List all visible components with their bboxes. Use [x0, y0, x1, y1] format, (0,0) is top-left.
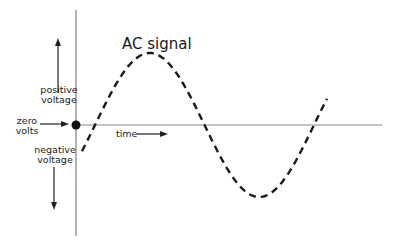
negative-voltage-line2: voltage — [32, 155, 78, 165]
time-label: time — [116, 129, 137, 139]
right-arrow-icon — [61, 121, 69, 127]
negative-voltage-label: negative voltage — [32, 145, 78, 165]
positive-voltage-label: positive voltage — [36, 85, 82, 105]
time-arrow-icon — [160, 131, 168, 137]
up-arrow-icon — [55, 38, 61, 46]
zero-volts-label: zero volts — [12, 116, 42, 136]
diagram-title: AC signal — [122, 35, 192, 53]
origin-dot — [72, 121, 81, 130]
ac-signal-diagram — [0, 0, 399, 249]
down-arrow-icon — [51, 202, 57, 210]
positive-voltage-line2: voltage — [36, 95, 82, 105]
zero-volts-line2: volts — [12, 126, 42, 136]
